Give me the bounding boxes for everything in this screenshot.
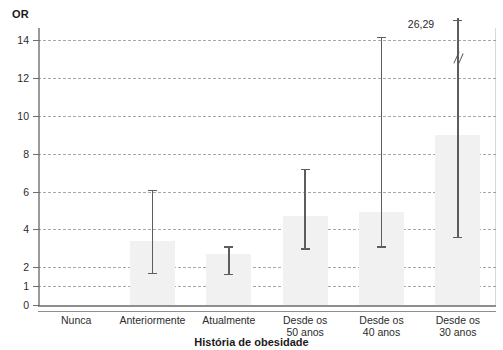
- y-tick-mark: [33, 305, 40, 306]
- x-tick-label: Atualmente: [191, 315, 267, 327]
- data-point-label: 26,29: [408, 18, 434, 30]
- y-tick-label: 14: [0, 35, 29, 46]
- gridline: [38, 78, 496, 79]
- gridline: [38, 116, 496, 117]
- chart-container: OR História de obesidade 012468101214Nun…: [0, 0, 503, 350]
- x-tick-label-line: Desde os: [343, 315, 419, 327]
- gridline: [38, 154, 496, 155]
- error-bar-cap-lower: [148, 273, 157, 274]
- error-bar-line: [381, 37, 382, 247]
- y-tick-mark: [33, 40, 40, 41]
- x-tick-label: Nunca: [38, 315, 114, 327]
- x-tick-label: Desde os30 anos: [420, 315, 496, 338]
- error-bar-line: [304, 169, 305, 248]
- y-tick-label: 12: [0, 73, 29, 84]
- y-tick-label: 10: [0, 111, 29, 122]
- y-tick-mark: [33, 286, 40, 287]
- y-tick-mark: [33, 116, 40, 117]
- x-tick-label-line: Nunca: [38, 315, 114, 327]
- y-tick-mark: [33, 154, 40, 155]
- y-tick-mark: [33, 267, 40, 268]
- y-tick-mark: [33, 78, 40, 79]
- y-tick-label: 4: [0, 224, 29, 235]
- axis-break-icon: [452, 51, 466, 67]
- error-bar-line: [228, 246, 229, 273]
- error-bar-cap-lower: [301, 248, 310, 249]
- gridline: [38, 192, 496, 193]
- y-tick-label: 2: [0, 262, 29, 273]
- error-bar-cap-lower: [377, 246, 386, 247]
- x-tick-label: Desde os40 anos: [343, 315, 419, 338]
- error-bar-cap-upper: [301, 169, 310, 170]
- y-tick-label: 8: [0, 149, 29, 160]
- x-tick-label-line: Desde os: [267, 315, 343, 327]
- error-bar-cap-lower: [224, 274, 233, 275]
- x-tick-label-line: 50 anos: [267, 327, 343, 339]
- gridline: [38, 286, 496, 287]
- plot-area: [38, 30, 496, 305]
- x-axis-baseline: [38, 311, 496, 312]
- y-tick-label: 1: [0, 281, 29, 292]
- y-tick-label: 6: [0, 187, 29, 198]
- error-bar-cap-lower: [453, 237, 462, 238]
- y-axis-title: OR: [12, 8, 29, 20]
- x-tick-label: Anteriormente: [114, 315, 190, 327]
- error-bar-cap-upper: [453, 20, 462, 21]
- y-tick-mark: [33, 229, 40, 230]
- error-bar-cap-upper: [224, 246, 233, 247]
- x-tick-label-line: 30 anos: [420, 327, 496, 339]
- x-tick-label-line: Anteriormente: [114, 315, 190, 327]
- x-tick-label-line: 40 anos: [343, 327, 419, 339]
- x-tick-label: Desde os50 anos: [267, 315, 343, 338]
- error-bar-cap-upper: [377, 37, 386, 38]
- x-tick-label-line: Atualmente: [191, 315, 267, 327]
- y-tick-mark: [33, 192, 40, 193]
- gridline: [38, 267, 496, 268]
- x-tick-label-line: Desde os: [420, 315, 496, 327]
- error-bar-cap-upper: [148, 190, 157, 191]
- gridline: [38, 40, 496, 41]
- error-bar-line: [152, 190, 153, 273]
- x-axis-line: [38, 305, 496, 307]
- gridline: [38, 229, 496, 230]
- y-tick-label: 0: [0, 300, 29, 311]
